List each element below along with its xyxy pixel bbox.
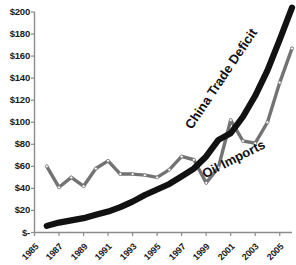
data-point-marker <box>278 81 281 84</box>
y-axis-tick-label: $140 <box>0 73 30 83</box>
y-axis-tick-label: $180 <box>0 29 30 39</box>
series-group <box>45 8 293 226</box>
data-point-marker <box>82 185 85 188</box>
data-point-marker <box>58 186 61 189</box>
data-point-marker <box>107 159 110 162</box>
data-point-marker <box>119 173 122 176</box>
data-point-marker <box>94 167 97 170</box>
axis-group <box>31 12 292 236</box>
chart-container: $200$180$160$140$120$100$80$60$40$20$- 1… <box>0 0 296 265</box>
data-point-marker <box>205 181 208 184</box>
data-point-marker <box>266 121 269 124</box>
y-axis-tick-label: $160 <box>0 51 30 61</box>
y-axis-tick-label: $60 <box>0 161 30 171</box>
data-point-marker <box>291 47 294 50</box>
y-axis-tick-label: $80 <box>0 139 30 149</box>
y-axis-tick-label: $40 <box>0 183 30 193</box>
y-axis-tick-label: $- <box>0 228 30 238</box>
series-line-oil-imports <box>47 48 292 187</box>
data-point-marker <box>131 173 134 176</box>
data-point-marker <box>156 176 159 179</box>
data-point-marker <box>180 155 183 158</box>
data-point-marker <box>70 176 73 179</box>
data-point-marker <box>241 139 244 142</box>
data-point-marker <box>45 165 48 168</box>
data-point-marker <box>143 174 146 177</box>
y-axis-tick-label: $120 <box>0 95 30 105</box>
y-axis-tick-label: $200 <box>0 7 30 17</box>
y-axis-tick-label: $20 <box>0 205 30 215</box>
data-point-marker <box>192 158 195 161</box>
data-point-marker <box>229 119 232 122</box>
y-axis-tick-label: $100 <box>0 117 30 127</box>
data-point-marker <box>168 168 171 171</box>
